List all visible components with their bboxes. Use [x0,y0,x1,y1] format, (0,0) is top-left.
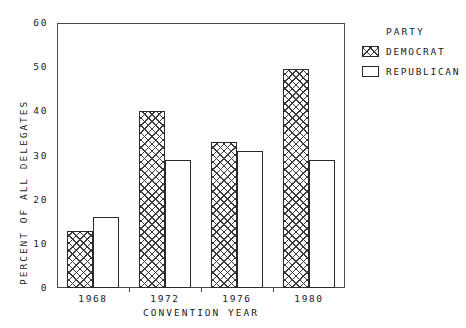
legend-title: PARTY [386,26,466,37]
x-tick-label: 1980 [273,293,345,304]
legend-item-democrat: DEMOCRAT [362,46,466,57]
x-axis-label: CONVENTION YEAR [57,307,345,318]
x-tick-mark [201,288,202,292]
bar-chart: PERCENT OF ALL DELEGATES 0102030405060 1… [0,0,466,328]
x-tick-label: 1976 [201,293,273,304]
legend-item-label: REPUBLICAN [386,66,460,77]
x-tick-mark [273,288,274,292]
legend-entries: DEMOCRATREPUBLICAN [362,46,466,77]
legend-item-label: DEMOCRAT [386,46,445,57]
legend-swatch-icon [362,66,379,77]
x-tick-label: 1968 [57,293,129,304]
x-tick-label: 1972 [129,293,201,304]
legend-swatch-icon [362,46,379,57]
legend: PARTY DEMOCRATREPUBLICAN [362,26,466,86]
legend-item-republican: REPUBLICAN [362,66,466,77]
x-tick-mark [129,288,130,292]
